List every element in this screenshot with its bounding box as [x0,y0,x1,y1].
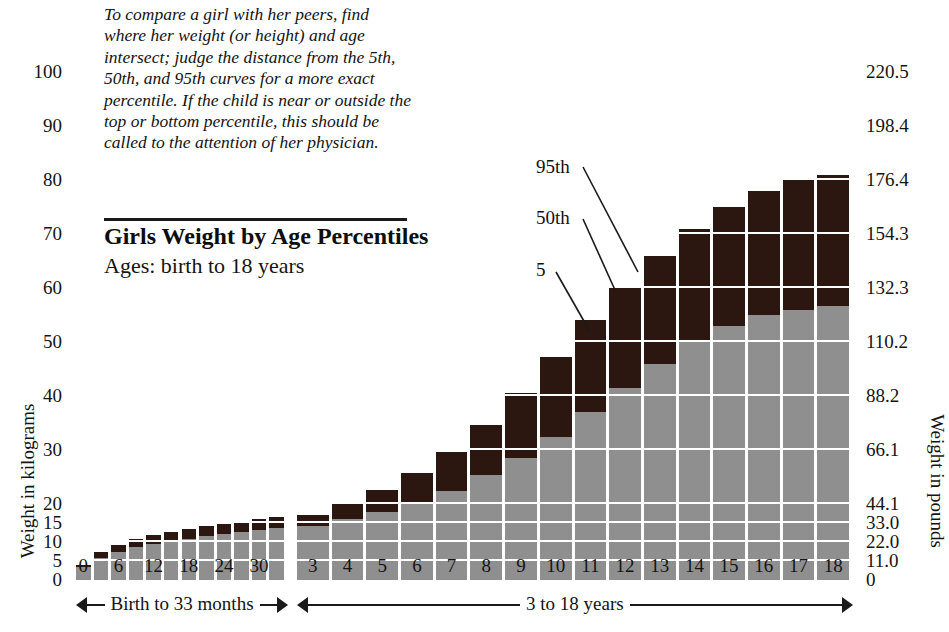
x-axis-tick: 18 [809,556,857,575]
range-label-months: Birth to 33 months [105,592,260,616]
arrow-right-icon [277,597,288,613]
x-axis-tick: 6 [103,556,134,575]
x-axis-tick: 24 [209,556,240,575]
x-axis-months: 0612182430 [76,556,284,578]
x-axis-tick: 12 [138,556,169,575]
callout-leader-lines [0,0,949,632]
growth-chart: 1009080706050403020151050 Weight in kilo… [0,0,949,632]
arrow-left-icon [76,597,87,613]
range-label-years: 3 to 18 years [520,592,630,616]
arrow-left-icon [297,597,308,613]
x-axis-tick: 30 [244,556,275,575]
x-axis-tick: 0 [68,556,99,575]
x-axis-years: 3456789101112131415161718 [297,556,849,578]
arrow-right-icon [842,597,853,613]
x-axis-tick: 18 [174,556,205,575]
range-indicator-months: Birth to 33 months [76,592,288,618]
range-indicator-years: 3 to 18 years [297,592,853,618]
